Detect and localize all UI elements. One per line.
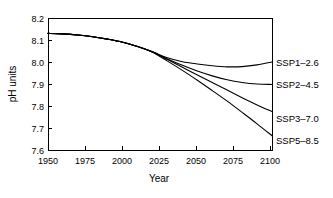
x-tick-label-2075: 2075 [223,156,243,166]
x-tick-label-2000: 2000 [112,156,132,166]
y-tick-label-7-9: 7.9 [31,80,44,90]
y-tick-marks [48,18,52,150]
y-tick-label-8-2: 8.2 [31,14,44,24]
y-tick-label-8-1: 8.1 [31,36,44,46]
data-series-group [48,33,272,135]
ph-projection-line-chart: 8.2 8.1 8.0 7.9 7.8 7.7 7.6 1950 1975 20… [0,0,333,198]
curve-ssp1-2-6 [48,33,272,67]
x-axis-title: Year [149,173,170,184]
plot-frame [48,18,272,150]
x-tick-label-2050: 2050 [186,156,206,166]
curve-ssp5-8-5 [48,33,272,135]
x-tick-label-1975: 1975 [75,156,95,166]
y-tick-label-7-6: 7.6 [31,146,44,156]
curve-ssp2-4-5 [48,33,272,84]
y-axis-title: pH units [7,66,18,103]
series-label-ssp2-4-5: SSP2–4.5 [276,79,319,90]
y-tick-label-7-7: 7.7 [31,124,44,134]
curve-ssp3-7-0 [48,33,272,111]
y-tick-label-7-8: 7.8 [31,102,44,112]
series-label-ssp3-7-0: SSP3–7.0 [276,113,319,124]
series-label-ssp5-8-5: SSP5–8.5 [276,135,319,146]
x-tick-label-1950: 1950 [38,156,58,166]
x-tick-label-2025: 2025 [149,156,169,166]
y-tick-label-8-0: 8.0 [31,58,44,68]
series-label-ssp1-2-6: SSP1–2.6 [276,57,319,68]
x-tick-label-2100: 2100 [260,156,280,166]
chart-figure: 8.2 8.1 8.0 7.9 7.8 7.7 7.6 1950 1975 20… [0,0,333,198]
x-tick-marks [48,146,270,150]
